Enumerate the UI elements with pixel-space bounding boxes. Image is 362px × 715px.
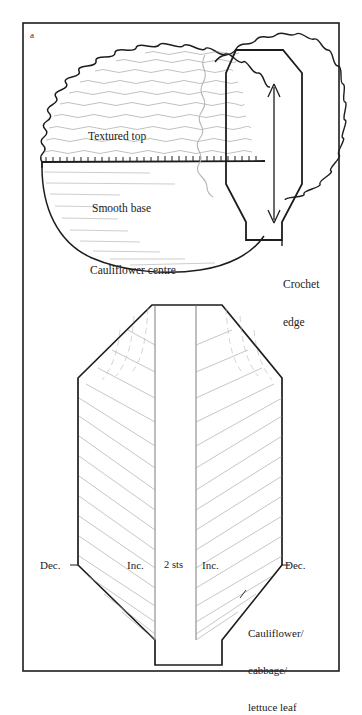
label-crochet-edge-line1: Crochet (283, 278, 319, 291)
panel-letter-a: a (30, 30, 34, 40)
label-cauliflower-centre: Cauliflower centre (90, 264, 176, 277)
label-leaf-caption-line2: cabbage/ (248, 664, 304, 676)
label-decrease-right: Dec. (285, 559, 305, 571)
label-crochet-edge-line2: edge (283, 316, 319, 329)
label-textured-top: Textured top (88, 130, 146, 143)
label-decrease-left: Dec. (40, 559, 60, 571)
label-crochet-edge: Crochet edge (283, 252, 319, 355)
label-leaf-caption: Cauliflower/ cabbage/ lettuce leaf (248, 602, 304, 715)
label-smooth-base: Smooth base (92, 202, 151, 215)
label-centre-stitches: 2 sts (164, 559, 183, 571)
label-increase-left: Inc. (127, 559, 144, 571)
label-leaf-caption-line3: lettuce leaf (248, 701, 304, 713)
texture-divider-line (42, 161, 265, 162)
label-increase-right: Inc. (202, 559, 219, 571)
label-leaf-caption-line1: Cauliflower/ (248, 627, 304, 639)
